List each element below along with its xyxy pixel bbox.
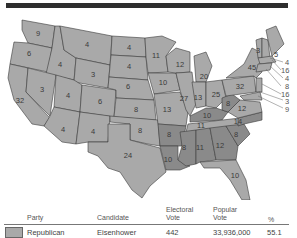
label-co: 6 bbox=[98, 97, 102, 106]
label-wy: 3 bbox=[91, 70, 95, 79]
state-nj bbox=[256, 78, 262, 92]
header-percent: % bbox=[268, 216, 274, 223]
label-tn: 11 bbox=[197, 121, 205, 130]
label-il: 27 bbox=[180, 94, 188, 103]
label-ny: 45 bbox=[248, 63, 256, 72]
label-tx: 24 bbox=[124, 151, 132, 160]
label-al: 11 bbox=[196, 143, 204, 152]
state-ct-ri bbox=[256, 63, 272, 72]
label-ok: 8 bbox=[138, 126, 142, 135]
label-pa: 32 bbox=[236, 82, 244, 91]
row-candidate: Eisenhower bbox=[97, 228, 136, 237]
label-ia: 10 bbox=[159, 78, 167, 87]
label-wa: 9 bbox=[36, 29, 40, 38]
label-va: 12 bbox=[238, 104, 246, 113]
label-ky: 10 bbox=[203, 111, 211, 120]
row-percent: 55.1 bbox=[267, 228, 282, 237]
label-id: 4 bbox=[58, 60, 62, 69]
label-wv: 8 bbox=[226, 99, 230, 108]
label-nc: 14 bbox=[234, 117, 242, 126]
label-ks: 8 bbox=[134, 105, 138, 114]
header-party: Party bbox=[27, 214, 43, 221]
label-mt: 4 bbox=[85, 40, 89, 49]
row-party: Republican bbox=[27, 228, 65, 237]
label-la: 10 bbox=[164, 155, 172, 164]
label-oh: 25 bbox=[212, 90, 220, 99]
label-sd: 4 bbox=[127, 62, 131, 71]
row-electoral-vote: 442 bbox=[166, 228, 179, 237]
header-electoral-2: Vote bbox=[166, 214, 180, 221]
label-or: 6 bbox=[27, 49, 31, 58]
label-mo: 13 bbox=[163, 105, 171, 114]
state-fl bbox=[200, 160, 250, 200]
label-vt: 3 bbox=[256, 46, 260, 55]
label-wi: 12 bbox=[176, 60, 184, 69]
label-az: 4 bbox=[61, 125, 65, 134]
label-ar: 8 bbox=[167, 130, 171, 139]
label-ut: 4 bbox=[66, 91, 70, 100]
label-sc: 8 bbox=[234, 130, 238, 139]
label-ca: 32 bbox=[16, 96, 24, 105]
header-popular-1: Popular bbox=[213, 206, 237, 213]
label-me: 5 bbox=[274, 50, 278, 59]
label-mi: 20 bbox=[200, 72, 208, 81]
callout-md: 9 bbox=[285, 105, 289, 114]
republican-swatch bbox=[5, 227, 23, 238]
state-ms bbox=[178, 130, 196, 166]
label-fl: 10 bbox=[231, 171, 239, 180]
label-ne: 6 bbox=[126, 82, 130, 91]
header-electoral-1: Electoral bbox=[166, 206, 193, 213]
row-popular-vote: 33,936,000 bbox=[213, 228, 251, 237]
label-nv: 3 bbox=[40, 85, 44, 94]
header-popular-2: Vote bbox=[213, 214, 227, 221]
label-ms: 8 bbox=[182, 143, 186, 152]
title-bar bbox=[6, 3, 288, 8]
header-candidate: Candidate bbox=[97, 214, 129, 221]
label-mn: 11 bbox=[152, 51, 160, 60]
us-electoral-map: 9 6 32 4 3 4 3 4 4 6 4 4 4 6 8 8 24 11 1… bbox=[0, 10, 297, 200]
header-rule bbox=[4, 224, 289, 225]
label-ga: 12 bbox=[216, 141, 224, 150]
label-nd: 4 bbox=[127, 43, 131, 52]
label-nm: 4 bbox=[91, 127, 95, 136]
label-in: 13 bbox=[194, 93, 202, 102]
